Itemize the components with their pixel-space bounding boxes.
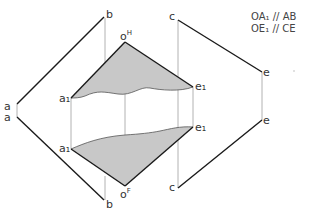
label-e-bottom: e [263, 114, 270, 127]
label-e-top: e [263, 66, 270, 79]
label-b-bottom: b [106, 198, 113, 211]
label-c-bottom: c [169, 181, 175, 194]
label-b-top: b [106, 8, 113, 21]
label-a-bottom: a [4, 111, 11, 124]
upper-surface [71, 42, 193, 98]
label-o-bottom: oF [120, 187, 131, 201]
line-ce-top [178, 20, 262, 72]
label-c-top: c [169, 10, 175, 23]
label-a1-top: a₁ [59, 92, 70, 105]
label-e1-top: e₁ [195, 80, 206, 93]
label-o-top: oH [120, 29, 132, 43]
projection-diagram: b b a a c c e e a₁ a₁ e₁ e₁ oH oF OA₁ //… [0, 0, 309, 213]
speck [293, 70, 295, 72]
note-parallel-oe1-ce: OE₁ // CE [251, 23, 296, 34]
lower-surface [71, 127, 193, 186]
label-e1-bottom: e₁ [195, 121, 206, 134]
note-parallel-oa1-ab: OA₁ // AB [251, 11, 296, 22]
line-ce-bottom [178, 120, 262, 188]
label-a1-bottom: a₁ [59, 142, 70, 155]
